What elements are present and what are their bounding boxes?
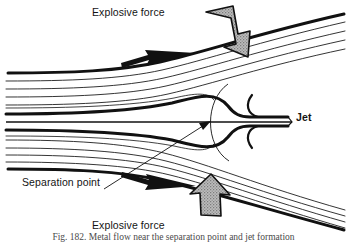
flow-diagram-canvas	[0, 0, 347, 242]
explosive-force-top-label: Explosive force	[92, 6, 165, 18]
explosive-force-bottom-label: Explosive force	[92, 219, 165, 231]
separation-point-label: Separation point	[22, 176, 100, 188]
figure-caption: Fig. 182. Metal flow near the separation…	[0, 232, 347, 242]
jet-label: Jet	[296, 111, 311, 123]
diagram-background	[0, 0, 347, 242]
